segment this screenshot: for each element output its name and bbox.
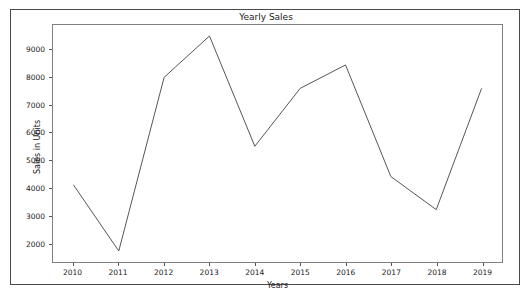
y-tick-mark — [49, 77, 52, 78]
x-tick-mark — [209, 263, 210, 266]
x-tick-label: 2018 — [417, 268, 457, 277]
y-tick-label: 4000 — [11, 183, 45, 192]
x-tick-mark — [255, 263, 256, 266]
x-tick-label: 2012 — [144, 268, 184, 277]
y-tick-label: 5000 — [11, 156, 45, 165]
y-tick-mark — [49, 216, 52, 217]
x-tick-label: 2015 — [280, 268, 320, 277]
plot-area — [52, 24, 503, 263]
x-tick-label: 2016 — [326, 268, 366, 277]
y-tick-label: 9000 — [11, 45, 45, 54]
x-tick-mark — [73, 263, 74, 266]
series-polyline — [73, 36, 481, 251]
y-tick-label: 2000 — [11, 239, 45, 248]
y-tick-mark — [49, 49, 52, 50]
y-tick-mark — [49, 244, 52, 245]
x-tick-label: 2019 — [463, 268, 503, 277]
y-tick-mark — [49, 188, 52, 189]
y-tick-label: 7000 — [11, 100, 45, 109]
x-axis-label: Years — [52, 281, 503, 290]
y-tick-mark — [49, 160, 52, 161]
x-tick-mark — [164, 263, 165, 266]
figure-container: Yearly Sales Sales in Units 200030004000… — [10, 9, 520, 285]
line-series — [53, 25, 502, 262]
plot-inner — [53, 25, 502, 262]
x-tick-mark — [437, 263, 438, 266]
x-tick-mark — [118, 263, 119, 266]
top-cropped-text — [0, 0, 531, 7]
x-tick-label: 2013 — [189, 268, 229, 277]
y-tick-mark — [49, 132, 52, 133]
x-tick-label: 2014 — [235, 268, 275, 277]
y-tick-mark — [49, 105, 52, 106]
x-tick-mark — [483, 263, 484, 266]
x-tick-mark — [300, 263, 301, 266]
x-tick-label: 2011 — [98, 268, 138, 277]
screenshot-root: Yearly Sales Sales in Units 200030004000… — [0, 0, 531, 295]
x-tick-mark — [391, 263, 392, 266]
y-tick-label: 6000 — [11, 128, 45, 137]
x-tick-label: 2017 — [371, 268, 411, 277]
chart-title: Yearly Sales — [11, 12, 521, 22]
y-tick-label: 8000 — [11, 72, 45, 81]
x-tick-mark — [346, 263, 347, 266]
x-tick-label: 2010 — [53, 268, 93, 277]
y-tick-label: 3000 — [11, 211, 45, 220]
